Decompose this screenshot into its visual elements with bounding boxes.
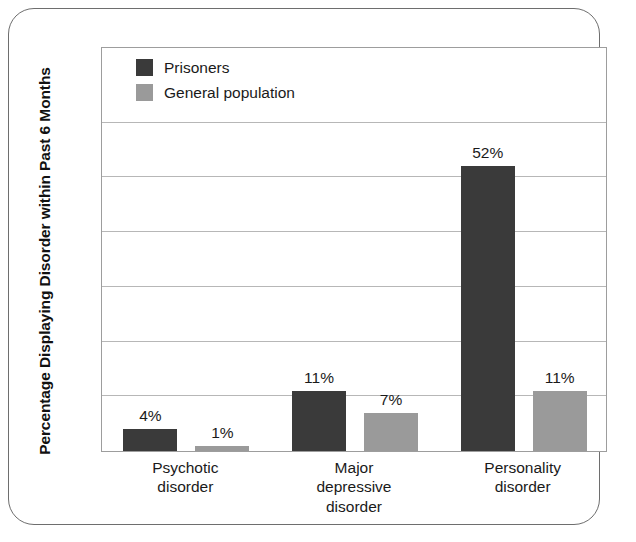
category-label-line: Psychotic	[101, 458, 270, 477]
category-label: Psychoticdisorder	[101, 458, 270, 497]
legend-swatch-prisoners	[136, 59, 153, 76]
gridline	[102, 176, 606, 177]
plot-area: Prisoners General population 4%1%11%7%52…	[101, 47, 607, 452]
category-label-line: Personality	[438, 458, 607, 477]
figure-frame: Percentage Displaying Disorder within Pa…	[8, 8, 600, 525]
bar-value-label: 11%	[519, 369, 601, 387]
gridline	[102, 122, 606, 123]
legend-item-prisoners[interactable]: Prisoners	[136, 57, 295, 78]
category-label-line: disorder	[270, 497, 439, 516]
bar[interactable]	[123, 429, 177, 451]
category-label-line: disorder	[438, 477, 607, 496]
gridline	[102, 395, 606, 396]
gridline	[102, 286, 606, 287]
legend-item-general-population[interactable]: General population	[136, 82, 295, 103]
category-label: Majordepressivedisorder	[270, 458, 439, 516]
bar[interactable]	[364, 413, 418, 451]
bar-value-label: 7%	[350, 391, 432, 409]
category-label-line: Major	[270, 458, 439, 477]
bar[interactable]	[461, 166, 515, 451]
y-axis-title: Percentage Displaying Disorder within Pa…	[17, 59, 73, 464]
gridline	[102, 231, 606, 232]
category-label-line: depressive	[270, 477, 439, 496]
category-label: Personalitydisorder	[438, 458, 607, 497]
bar[interactable]	[195, 446, 249, 451]
category-axis-labels: PsychoticdisorderMajordepressivedisorder…	[101, 458, 607, 536]
bar[interactable]	[292, 391, 346, 451]
gridline	[102, 341, 606, 342]
category-label-line: disorder	[101, 477, 270, 496]
legend-label-prisoners: Prisoners	[164, 59, 229, 77]
legend-swatch-general-population	[136, 84, 153, 101]
bar[interactable]	[533, 391, 587, 451]
bar-value-label: 1%	[181, 424, 263, 442]
legend-label-general-population: General population	[164, 84, 295, 102]
bar-value-label: 52%	[447, 144, 529, 162]
bars-layer: 4%1%11%7%52%11%	[102, 48, 606, 451]
bar-value-label: 4%	[109, 407, 191, 425]
bar-value-label: 11%	[278, 369, 360, 387]
chart-legend: Prisoners General population	[136, 57, 295, 103]
